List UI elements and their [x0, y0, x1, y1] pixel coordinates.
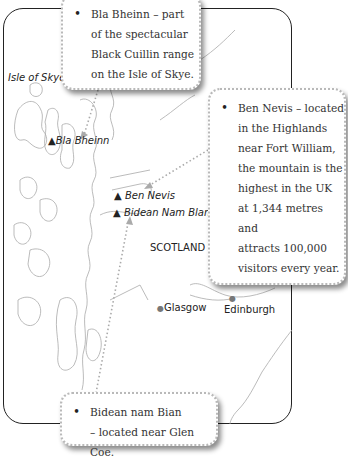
bullet-icon: • — [221, 98, 228, 118]
isle-of-skye-label: Isle of Skye — [8, 72, 65, 84]
city-name: Glasgow — [164, 302, 207, 313]
callout-ben-nevis: • Ben Nevis – located in the Highlands n… — [208, 88, 346, 285]
callout-text: Bidean nam Bian – located near Glen Coe. — [90, 402, 216, 460]
mountain-bla-bheinn: ▲Bla Bheinn — [48, 135, 109, 146]
city-marker-icon: ● — [229, 294, 236, 303]
bullet-icon: • — [74, 4, 81, 24]
city-marker-icon: ● — [157, 304, 164, 313]
city-glasgow: ●Glasgow — [157, 302, 207, 313]
mountain-bidean-nam-blan: ▲ Bidean Nam Blan — [113, 207, 210, 218]
region-label-scotland: SCOTLAND — [150, 242, 205, 253]
mountain-name: Bla Bheinn — [56, 135, 110, 146]
mountain-name: Ben Nevis — [125, 190, 175, 201]
callout-text: Bla Bheinn – part of the spectacular Bla… — [91, 4, 194, 84]
callout-bla-bheinn: • Bla Bheinn – part of the spectacular B… — [61, 0, 201, 90]
callout-text: Ben Nevis – located in the Highlands nea… — [238, 98, 344, 278]
city-edinburgh: ●Edinburgh — [224, 304, 275, 315]
mountain-marker-icon: ▲ — [48, 135, 56, 146]
callout-bidean-nam-bian: • Bidean nam Bian – located near Glen Co… — [60, 392, 218, 446]
mountain-ben-nevis: ▲ Ben Nevis — [114, 190, 175, 201]
mountain-name: Bidean Nam Blan — [124, 207, 210, 218]
bullet-icon: • — [73, 402, 80, 422]
city-name: Edinburgh — [224, 304, 275, 315]
mountain-marker-icon: ▲ — [114, 190, 122, 201]
mountain-marker-icon: ▲ — [113, 207, 121, 218]
